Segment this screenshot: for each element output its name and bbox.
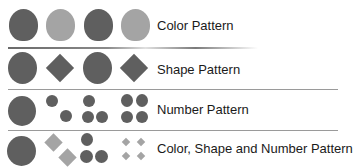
small-circle-icon (136, 111, 148, 123)
small-light-diamond-icon (137, 152, 145, 160)
small-light-diamond-icon (137, 138, 145, 146)
light-circle-icon (121, 9, 150, 41)
light-diamond-icon (44, 133, 62, 151)
dark-circle-icon (84, 9, 113, 41)
small-light-diamond-icon (122, 152, 130, 160)
small-circle-icon (82, 111, 94, 123)
small-circle-icon (81, 133, 93, 146)
large-circle-icon (8, 96, 36, 126)
color-pattern-label: Color Pattern (157, 18, 234, 33)
small-circle-icon (95, 150, 108, 163)
number-pattern-label: Number Pattern (157, 102, 249, 117)
light-circle-icon (46, 9, 75, 41)
small-circle-icon (83, 95, 95, 107)
small-circle-icon (96, 111, 108, 123)
light-diamond-icon (58, 148, 76, 166)
divider (8, 89, 338, 90)
small-circle-icon (80, 150, 93, 163)
small-circle-icon (136, 94, 148, 107)
diamond-icon (120, 54, 148, 82)
small-circle-icon (121, 111, 133, 123)
small-circle-icon (60, 110, 72, 122)
shape-pattern-label: Shape Pattern (157, 62, 240, 77)
circle-icon (8, 52, 37, 84)
color-shape-number-pattern-label: Color, Shape and Number Pattern (157, 141, 353, 156)
circle-icon (83, 52, 112, 84)
small-light-diamond-icon (122, 138, 130, 146)
large-circle-icon (7, 136, 36, 166)
dark-circle-icon (9, 9, 38, 41)
small-circle-icon (121, 94, 133, 107)
small-circle-icon (46, 95, 58, 107)
diamond-icon (46, 54, 74, 82)
divider (8, 47, 258, 49)
divider (8, 130, 338, 131)
